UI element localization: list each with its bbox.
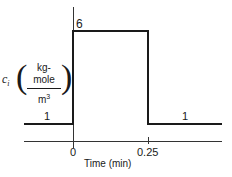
x-tick-label-025: 0.25 (137, 147, 158, 158)
series-baseline-right (147, 123, 222, 125)
level-label-top: 6 (76, 19, 83, 30)
y-axis-units: kg-mole m3 (27, 62, 61, 106)
left-paren: ( (16, 60, 27, 94)
y-axis-symbol: ci (2, 72, 10, 88)
series-pulse-top (72, 30, 149, 32)
level-label-right: 1 (182, 111, 188, 122)
right-paren: ) (61, 60, 72, 94)
series-fall-edge (147, 30, 149, 125)
x-tick-label-0: 0 (70, 147, 76, 158)
units-numerator: kg-mole (27, 62, 61, 86)
series-baseline-left (24, 123, 74, 125)
series-rise-edge (72, 30, 74, 125)
level-label-left: 1 (44, 111, 50, 122)
units-denominator: m3 (27, 91, 61, 106)
x-tick-025 (148, 137, 149, 144)
x-axis-line (24, 141, 222, 142)
fraction-bar (27, 88, 61, 89)
x-axis-title: Time (min) (84, 158, 131, 169)
y-axis-label: ci ( kg-mole m3 ) (2, 58, 70, 102)
